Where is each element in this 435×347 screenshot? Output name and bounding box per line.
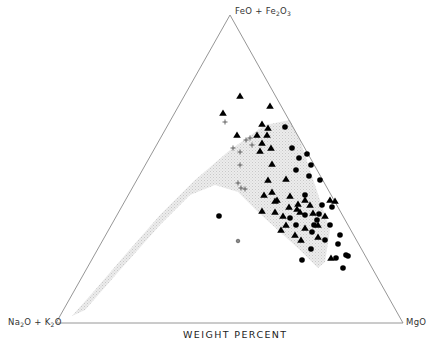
circle-marker — [304, 151, 310, 157]
axis-label-weight-percent: WEIGHT PERCENT — [183, 329, 288, 340]
circle-marker — [302, 192, 308, 198]
circle-marker — [289, 145, 295, 151]
circle-marker — [308, 162, 314, 168]
circle-marker — [216, 213, 222, 219]
circle-marker — [317, 177, 323, 183]
circle-marker — [299, 257, 305, 263]
apex-label-mgo: MgO — [406, 317, 426, 327]
circle-marker — [335, 241, 341, 247]
circle-marker — [345, 253, 351, 259]
apex-label-feo-fe2o3: FeO + Fe2O3 — [235, 6, 291, 17]
triangle-marker — [233, 131, 241, 137]
circle-marker — [340, 265, 346, 271]
circle-marker — [327, 222, 333, 228]
triangle-marker — [219, 109, 227, 115]
circle-marker — [311, 222, 317, 228]
circle-marker — [314, 217, 320, 223]
circle-marker — [306, 173, 312, 179]
triangle-marker — [258, 120, 266, 126]
circle-marker — [319, 202, 325, 208]
circle-marker — [302, 212, 308, 218]
cross-marker — [223, 120, 228, 125]
circle-marker — [333, 255, 339, 261]
circle-marker — [293, 222, 299, 228]
circle-marker — [293, 167, 299, 173]
circle-marker — [337, 232, 343, 238]
circle-marker — [322, 237, 328, 243]
open-circle-marker — [236, 239, 240, 243]
triangle-marker — [236, 92, 244, 98]
circle-marker — [329, 204, 335, 210]
circle-marker — [309, 229, 315, 235]
circle-marker — [287, 215, 293, 221]
circle-marker — [316, 211, 322, 217]
triangle-marker — [266, 102, 274, 108]
ternary-diagram — [0, 0, 435, 347]
circle-marker — [296, 155, 302, 161]
circle-marker — [282, 124, 288, 130]
circle-marker — [308, 246, 314, 252]
apex-label-na2o-k2o: Na2O + K2O — [8, 317, 62, 328]
